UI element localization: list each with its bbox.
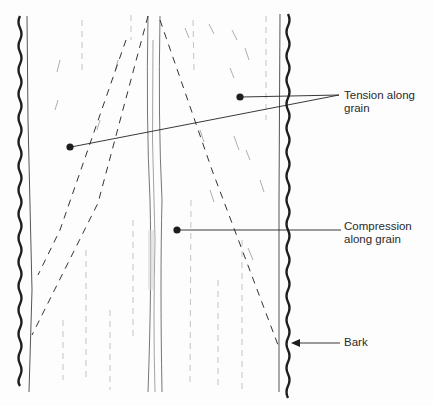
left-wood-edge xyxy=(27,16,32,392)
compression-label-line2: along grain xyxy=(344,233,412,246)
compression-dot xyxy=(173,226,180,233)
right-bark-edge xyxy=(287,14,290,398)
tension-label-line2: grain xyxy=(344,102,415,115)
tension-dot-left xyxy=(66,143,73,150)
stress-boundary-lines xyxy=(32,16,278,345)
tension-dot-right xyxy=(236,93,243,100)
tension-label: Tension along grain xyxy=(344,89,415,115)
bark-arrowhead-icon xyxy=(291,339,300,347)
bark-label: Bark xyxy=(344,336,368,349)
log-section-drawing xyxy=(0,0,433,406)
tension-label-line1: Tension along xyxy=(344,89,415,102)
compression-label: Compression along grain xyxy=(344,220,412,246)
tension-leader-lines xyxy=(71,95,339,147)
right-wood-edge xyxy=(279,14,280,392)
pith-band xyxy=(147,16,162,392)
compression-label-line1: Compression xyxy=(344,220,412,233)
wood-grain-lines xyxy=(63,15,266,390)
left-bark-edge xyxy=(19,16,22,386)
growth-stress-diagram: Tension along grain Compression along gr… xyxy=(0,0,433,406)
